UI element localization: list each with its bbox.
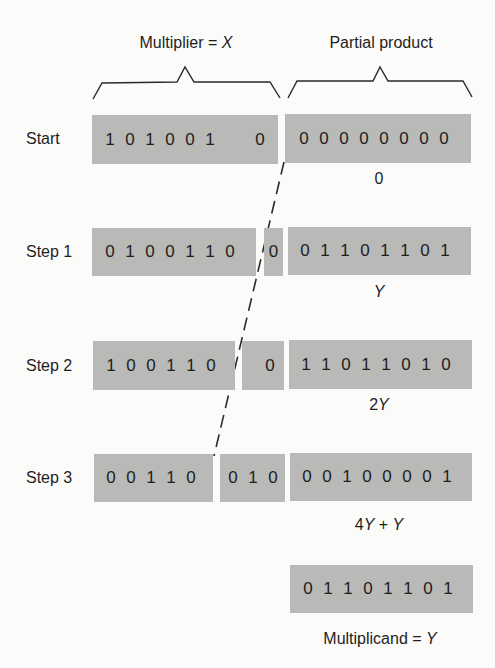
bit: 1 <box>243 468 263 488</box>
partial-product-bits: 01101101 <box>295 241 455 261</box>
bit: 0 <box>297 467 317 487</box>
multiplier-bits: 101001 <box>100 130 220 150</box>
bit: 1 <box>337 467 357 487</box>
partial-product-bits: 00100001 <box>297 467 457 487</box>
bit: 0 <box>298 579 318 599</box>
partial-product-register-step-3: 00100001 <box>290 453 472 501</box>
bit: 0 <box>160 130 180 150</box>
bit: 0 <box>295 241 315 261</box>
bit: 0 <box>294 129 314 149</box>
bit: 0 <box>264 242 284 262</box>
partial-product-bits: 00000000 <box>294 129 454 149</box>
shifted-register-step-2: 0 <box>242 341 284 390</box>
bit: 1 <box>378 579 398 599</box>
bit: 1 <box>140 130 160 150</box>
row-label-step-1: Step 1 <box>26 243 72 261</box>
bit: 0 <box>354 129 374 149</box>
bit: 0 <box>414 129 434 149</box>
bit: 0 <box>141 356 161 376</box>
bit: 1 <box>435 241 455 261</box>
bit: 1 <box>437 467 457 487</box>
multiplicand-bits: 01101101 <box>298 579 458 599</box>
bit: 0 <box>260 356 280 376</box>
bit: 0 <box>100 242 120 262</box>
bit: 1 <box>141 468 161 488</box>
bit: 0 <box>357 467 377 487</box>
partial-product-bits: 11011010 <box>296 355 456 375</box>
bit: 0 <box>317 467 337 487</box>
bit: 0 <box>223 468 243 488</box>
row-label-start: Start <box>26 130 60 148</box>
bit: 0 <box>377 467 397 487</box>
row-label-step-3: Step 3 <box>26 469 72 487</box>
bit: 1 <box>438 579 458 599</box>
shifted-bits: 0 <box>264 242 284 262</box>
bit: 0 <box>263 468 283 488</box>
bit: 0 <box>355 241 375 261</box>
bit: 0 <box>101 468 121 488</box>
multiplier-register-start: 101001 0 <box>92 115 278 164</box>
shifted-bits: 010 <box>223 468 283 488</box>
bit: 0 <box>220 242 240 262</box>
bit: 1 <box>200 242 220 262</box>
multiplier-brace <box>93 67 280 99</box>
partial-product-register-step-2: 11011010 <box>289 340 472 389</box>
multiplicand-label: Multiplicand = Y <box>323 630 436 648</box>
bit: 0 <box>434 129 454 149</box>
bit: 0 <box>394 129 414 149</box>
bit: 1 <box>376 355 396 375</box>
bit: 0 <box>415 241 435 261</box>
bit: 1 <box>318 579 338 599</box>
shift-boundary-dashed-line <box>214 162 284 456</box>
bit: 0 <box>417 467 437 487</box>
shifted-bits: 0 <box>250 130 270 150</box>
multiplier-register-step-2: 100110 <box>93 341 235 390</box>
shifted-register-step-3: 010 <box>220 454 285 502</box>
shifted-bits: 0 <box>260 356 280 376</box>
bit: 1 <box>200 130 220 150</box>
bit: 0 <box>336 355 356 375</box>
bit: 0 <box>120 130 140 150</box>
bit: 0 <box>180 130 200 150</box>
bit: 1 <box>398 579 418 599</box>
multiplier-bits: 0100110 <box>100 242 240 262</box>
partial-product-brace <box>288 67 472 98</box>
bit: 1 <box>375 241 395 261</box>
bit: 0 <box>314 129 334 149</box>
multiplier-register-step-1: 0100110 <box>92 228 256 276</box>
annotation-step-1: Y <box>374 283 385 301</box>
bit: 0 <box>250 130 270 150</box>
bit: 1 <box>161 468 181 488</box>
bit: 1 <box>296 355 316 375</box>
bit: 1 <box>161 356 181 376</box>
bit: 1 <box>315 241 335 261</box>
bit: 0 <box>181 468 201 488</box>
bit: 0 <box>436 355 456 375</box>
bit: 0 <box>358 579 378 599</box>
bit: 1 <box>416 355 436 375</box>
bit: 0 <box>121 468 141 488</box>
bit: 1 <box>335 241 355 261</box>
bit: 1 <box>101 356 121 376</box>
partial-product-header: Partial product <box>329 34 432 52</box>
bit: 1 <box>338 579 358 599</box>
bit: 1 <box>180 242 200 262</box>
annotation-start: 0 <box>375 170 384 188</box>
bit: 0 <box>201 356 221 376</box>
partial-product-register-step-1: 01101101 <box>288 227 471 275</box>
annotation-step-3: 4Y + Y <box>355 516 403 534</box>
annotation-step-2: 2Y <box>369 396 389 414</box>
bit: 1 <box>356 355 376 375</box>
row-label-step-2: Step 2 <box>26 357 72 375</box>
shifted-register-step-1: 0 <box>264 228 283 276</box>
bit: 0 <box>121 356 141 376</box>
bit: 1 <box>316 355 336 375</box>
bit: 0 <box>396 355 416 375</box>
bit: 1 <box>395 241 415 261</box>
bit: 0 <box>397 467 417 487</box>
partial-product-register-start: 00000000 <box>285 114 471 163</box>
bit: 0 <box>374 129 394 149</box>
multiplier-header: Multiplier = X <box>140 34 233 52</box>
bit: 0 <box>140 242 160 262</box>
bit: 1 <box>181 356 201 376</box>
